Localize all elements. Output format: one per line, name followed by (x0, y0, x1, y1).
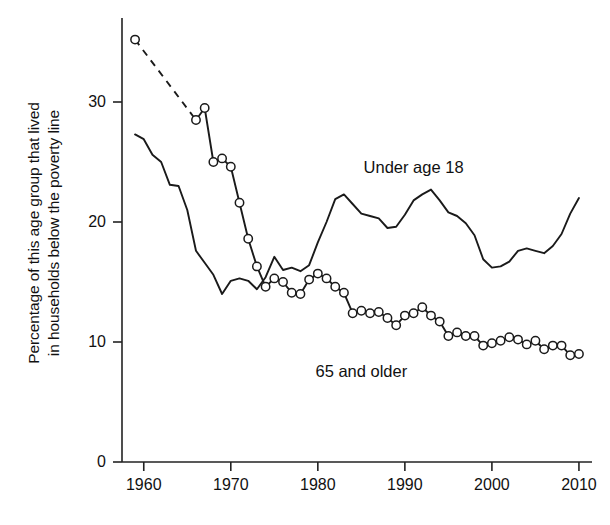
data-point-marker (505, 333, 513, 341)
data-point-marker (288, 289, 296, 297)
data-point-marker (218, 154, 226, 162)
data-point-marker (531, 337, 539, 345)
x-axis-tick-label: 1990 (387, 476, 423, 494)
data-point-marker (496, 337, 504, 345)
data-point-marker (523, 340, 531, 348)
data-point-marker (253, 262, 261, 270)
y-axis-ticks (113, 102, 122, 462)
data-point-marker (566, 351, 574, 359)
data-point-marker (514, 335, 522, 343)
y-axis-tick-label: 0 (97, 453, 106, 471)
data-point-marker (462, 332, 470, 340)
plot-area (0, 0, 610, 525)
data-point-marker (340, 289, 348, 297)
data-point-marker (549, 341, 557, 349)
data-point-marker (540, 345, 548, 353)
data-series-group (131, 35, 583, 359)
data-point-marker (261, 283, 269, 291)
data-point-marker (357, 307, 365, 315)
data-point-marker (322, 274, 330, 282)
data-point-marker (557, 341, 565, 349)
data-point-marker (305, 275, 313, 283)
data-point-marker (227, 163, 235, 171)
data-point-marker (375, 308, 383, 316)
data-point-marker (131, 35, 139, 43)
data-point-marker (200, 104, 208, 112)
data-point-marker (435, 317, 443, 325)
data-point-marker (209, 158, 217, 166)
x-axis-ticks (144, 462, 579, 471)
series-annotation-label: Under age 18 (364, 157, 464, 176)
x-axis-tick-label: 2000 (474, 476, 510, 494)
data-point-marker (314, 269, 322, 277)
poverty-rate-line-chart: Percentage of this age group that lived … (0, 0, 610, 525)
data-point-marker (401, 311, 409, 319)
data-point-marker (444, 332, 452, 340)
data-point-marker (418, 303, 426, 311)
data-point-marker (479, 341, 487, 349)
axes (113, 18, 592, 471)
data-point-marker (575, 350, 583, 358)
series-annotation-label: 65 and older (315, 361, 407, 380)
data-point-marker (409, 309, 417, 317)
series-2 (131, 35, 583, 359)
y-axis-tick-label: 30 (88, 93, 106, 111)
data-point-marker (296, 290, 304, 298)
y-axis-tick-label: 20 (88, 213, 106, 231)
x-axis-tick-label: 1970 (213, 476, 249, 494)
x-axis-tick-label: 1960 (126, 476, 162, 494)
data-point-marker (235, 199, 243, 207)
data-point-marker (244, 235, 252, 243)
data-point-marker (348, 309, 356, 317)
y-axis-tick-label: 10 (88, 333, 106, 351)
data-point-marker (270, 274, 278, 282)
series-dashed-segment (135, 40, 196, 120)
x-axis-tick-label: 2010 (561, 476, 597, 494)
data-point-marker (331, 283, 339, 291)
data-point-marker (366, 309, 374, 317)
series-1 (135, 134, 579, 294)
data-point-marker (427, 311, 435, 319)
data-point-marker (488, 339, 496, 347)
data-point-marker (392, 321, 400, 329)
data-point-marker (192, 116, 200, 124)
data-point-marker (279, 278, 287, 286)
data-point-marker (470, 332, 478, 340)
data-point-marker (383, 314, 391, 322)
data-point-marker (453, 328, 461, 336)
series-line (135, 134, 579, 294)
x-axis-tick-label: 1980 (300, 476, 336, 494)
